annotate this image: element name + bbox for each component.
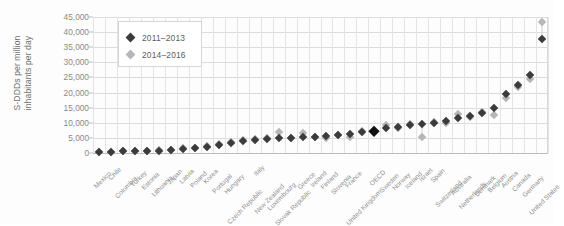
legend-label-series-2: 2014–2016 [142, 50, 186, 60]
gridline-vertical [452, 17, 453, 153]
gridline-vertical [105, 17, 106, 153]
gridline-vertical [249, 17, 250, 153]
gridline-vertical [285, 17, 286, 153]
gridline-vertical [524, 17, 525, 153]
y-axis-title: S-DDDs per million inhabitants per day [12, 3, 34, 143]
legend-swatch-series-1 [126, 33, 136, 43]
gridline-vertical [548, 17, 549, 153]
gridline-vertical [273, 17, 274, 153]
gridline-vertical [237, 17, 238, 153]
y-axis-tick-labels: 05,00010,00015,00020,00025,00030,00035,0… [39, 17, 89, 153]
gridline-vertical [93, 17, 94, 153]
y-axis-tick-label: 20,000 [43, 88, 89, 98]
gridline-vertical [261, 17, 262, 153]
gridline-vertical [500, 17, 501, 153]
gridline-horizontal [93, 153, 548, 154]
gridline-vertical [356, 17, 357, 153]
x-axis-tick-labels: MexicoChileColombiaTurkeyEstoniaLithuani… [93, 155, 548, 224]
y-axis-tick-label: 45,000 [43, 12, 89, 22]
y-axis-tick-label: 25,000 [43, 72, 89, 82]
gridline-vertical [392, 17, 393, 153]
y-axis-tick-label: 0 [43, 148, 89, 158]
gridline-vertical [488, 17, 489, 153]
gridline-vertical [464, 17, 465, 153]
y-axis-tick-label: 30,000 [43, 57, 89, 67]
gridline-vertical [332, 17, 333, 153]
gridline-vertical [476, 17, 477, 153]
x-axis-tick-label: Spain [441, 155, 458, 172]
gridline-vertical [428, 17, 429, 153]
gridline-vertical [321, 17, 322, 153]
gridline-vertical [213, 17, 214, 153]
legend-item: 2014–2016 [127, 46, 195, 63]
gridline-vertical [440, 17, 441, 153]
gridline-vertical [536, 17, 537, 153]
gridline-vertical [368, 17, 369, 153]
x-axis-tick-label: Italy [260, 155, 274, 169]
y-axis-tick-label: 40,000 [43, 27, 89, 37]
gridline-vertical [416, 17, 417, 153]
gridline-vertical [380, 17, 381, 153]
y-axis-tick-label: 5,000 [43, 133, 89, 143]
gridline-vertical [404, 17, 405, 153]
y-axis-tick-label: 15,000 [43, 103, 89, 113]
chart-legend: 2011–2013 2014–2016 [118, 21, 202, 67]
legend-item: 2011–2013 [127, 29, 195, 46]
y-axis-tick-label: 35,000 [43, 42, 89, 52]
gridline-vertical [309, 17, 310, 153]
legend-label-series-1: 2011–2013 [142, 33, 185, 43]
legend-swatch-series-2 [126, 50, 136, 60]
x-axis-tick-label-text: United Kingdom [345, 188, 383, 226]
y-axis-tick-label: 10,000 [43, 118, 89, 128]
gridline-vertical [225, 17, 226, 153]
